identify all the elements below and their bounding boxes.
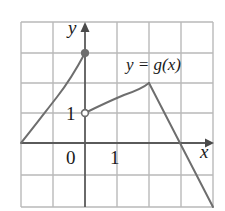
x-axis-tick-label-one: 1 [110, 148, 120, 167]
closed-endpoint-marker [82, 50, 89, 57]
open-endpoint-marker [82, 110, 89, 117]
y-axis-arrowhead [81, 22, 90, 32]
y-axis-tick-label-one: 1 [66, 104, 76, 123]
curve-equation-label: y = g(x) [126, 56, 181, 73]
graph-canvas [0, 0, 225, 211]
grid-lines [21, 22, 213, 207]
origin-tick-label: 0 [66, 148, 76, 167]
y-axis-label: y [68, 18, 76, 37]
x-axis-label: x [200, 142, 208, 161]
function-graph-figure: y x y = g(x) 0 1 1 [0, 0, 225, 211]
